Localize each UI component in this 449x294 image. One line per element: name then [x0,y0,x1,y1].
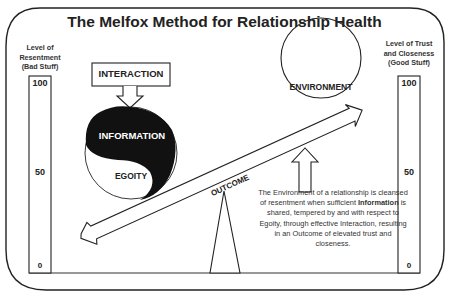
description-text: The Environment of a relationship is cle… [258,188,408,249]
right-label-line-1: Level of Trust [377,39,441,49]
interaction-label: INTERACTION [92,68,170,79]
up-arrow-icon [292,148,318,192]
right-label-line-2: and Closeness [377,49,441,59]
left-label-line-3: (Bad Stuff) [10,62,70,72]
information-label: INFORMATION [86,130,178,141]
left-tick-50: 50 [29,167,51,177]
right-tick-50: 50 [398,167,420,177]
page-title: The Melfox Method for Relationship Healt… [0,13,449,31]
down-arrow-icon [117,86,143,108]
egoity-label: EGOITY [100,171,162,181]
fulcrum-triangle [210,191,240,273]
right-scale-label: Level of Trust and Closeness (Good Stuff… [377,39,441,68]
yin-yang-circle [85,106,177,200]
left-label-line-1: Level of [10,43,70,53]
right-tick-0: 0 [398,261,420,270]
left-label-line-2: Resentment [10,53,70,63]
description-bold: Information [358,198,399,207]
left-tick-0: 0 [29,261,51,270]
right-tick-100: 100 [398,78,420,88]
left-scale-label: Level of Resentment (Bad Stuff) [10,43,70,72]
environment-label: ENVIRONMENT [281,82,361,92]
left-tick-100: 100 [29,78,51,88]
right-label-line-3: (Good Stuff) [377,58,441,68]
